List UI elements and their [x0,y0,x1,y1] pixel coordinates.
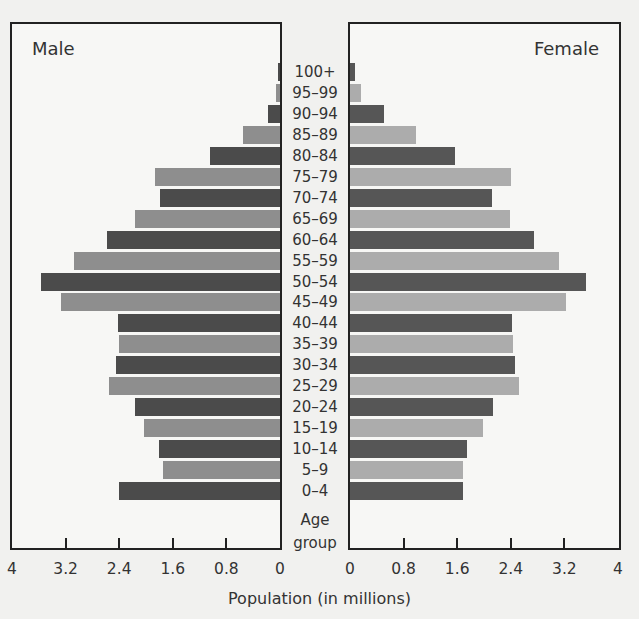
age-category-label: 95–99 [282,84,348,102]
age-category-label: 45–49 [282,293,348,311]
female-bar [350,293,566,311]
x-tick-label-female: 0.8 [391,560,416,578]
female-bar [350,105,384,123]
male-bar [109,377,280,395]
x-tick-label-male: 1.6 [160,560,185,578]
age-category-label: 60–64 [282,231,348,249]
male-bar [74,252,280,270]
female-bar [350,84,361,102]
male-bar [155,168,280,186]
age-category-label: 25–29 [282,377,348,395]
female-bar [350,461,463,479]
age-category-label: 0–4 [282,482,348,500]
male-bar [135,210,280,228]
male-bar [144,419,280,437]
female-bar [350,126,416,144]
male-bar [268,105,280,123]
male-bar [41,273,280,291]
female-bar [350,335,513,353]
male-bar [278,63,280,81]
age-group-axis-title: Age group [282,509,348,555]
female-bar [350,398,493,416]
male-bar [107,231,280,249]
x-tick-label-female: 4 [613,560,623,578]
female-bar [350,231,534,249]
female-bar [350,314,512,332]
male-bar [116,356,280,374]
age-category-label: 100+ [282,63,348,81]
male-bar [135,398,280,416]
x-tick-label-female: 2.4 [498,560,523,578]
age-category-label: 15–19 [282,419,348,437]
x-tick-male [118,538,120,548]
age-category-label: 20–24 [282,398,348,416]
female-bar [350,63,355,81]
x-tick-label-male: 0.8 [214,560,239,578]
female-bar [350,419,483,437]
age-category-label: 35–39 [282,335,348,353]
female-bar [350,147,455,165]
age-category-label: 85–89 [282,126,348,144]
female-bar [350,356,515,374]
age-category-label: 40–44 [282,314,348,332]
age-category-label: 10–14 [282,440,348,458]
female-bar [350,252,559,270]
female-bar [350,168,511,186]
age-group-line2: group [282,532,348,555]
age-category-label: 75–79 [282,168,348,186]
x-tick-male [172,538,174,548]
male-bar [119,335,280,353]
x-tick-female [563,538,565,548]
female-panel-title: Female [534,38,599,59]
x-tick-label-male: 4 [7,560,17,578]
age-category-label: 90–94 [282,105,348,123]
age-category-label: 30–34 [282,356,348,374]
x-tick-male [225,538,227,548]
female-bar [350,440,467,458]
x-axis-label: Population (in millions) [0,589,639,608]
x-tick-label-male: 3.2 [53,560,78,578]
female-bar [350,189,492,207]
x-tick-label-female: 3.2 [552,560,577,578]
x-tick-label-female: 1.6 [445,560,470,578]
age-group-line1: Age [282,509,348,532]
x-tick-male [65,538,67,548]
male-bar [119,482,280,500]
age-category-label: 5–9 [282,461,348,479]
x-tick-female [510,538,512,548]
male-bar [118,314,280,332]
x-tick-female [403,538,405,548]
x-tick-female [456,538,458,548]
age-category-label: 55–59 [282,252,348,270]
x-tick-label-female: 0 [345,560,355,578]
male-bar [210,147,280,165]
male-bar [163,461,280,479]
female-bar [350,377,519,395]
male-bar [159,440,280,458]
female-bar [350,273,586,291]
male-bar [243,126,280,144]
age-category-label: 80–84 [282,147,348,165]
age-category-label: 70–74 [282,189,348,207]
x-tick-label-male: 2.4 [107,560,132,578]
x-tick-label-male: 0 [275,560,285,578]
age-category-label: 65–69 [282,210,348,228]
age-category-label: 50–54 [282,273,348,291]
female-bar [350,482,463,500]
male-bar [160,189,280,207]
female-bar [350,210,510,228]
male-bar [276,84,280,102]
male-panel-title: Male [32,38,75,59]
male-bar [61,293,280,311]
